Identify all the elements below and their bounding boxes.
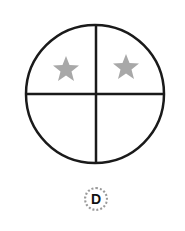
star-icon (113, 54, 139, 79)
option-label: D (84, 187, 108, 211)
star-icon (53, 56, 79, 81)
